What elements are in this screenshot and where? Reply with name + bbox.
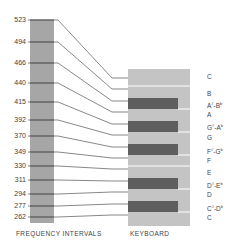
key-note-label: C — [207, 214, 212, 221]
frequency-label: 370 — [0, 132, 26, 140]
key-note-label: F#-Gb — [207, 146, 223, 155]
black-key — [128, 98, 178, 109]
frequency-label: 415 — [0, 98, 26, 106]
frequency-intervals-caption: FREQUENCY INTERVALS — [16, 230, 102, 237]
frequency-label: 330 — [0, 162, 26, 170]
frequency-label: 294 — [0, 190, 26, 198]
keyboard-caption: KEYBOARD — [130, 230, 169, 237]
diagram-graphics — [0, 0, 235, 247]
key-note-label: C#-Db — [207, 203, 223, 212]
frequency-label: 349 — [0, 148, 26, 156]
frequency-label: 523 — [0, 16, 26, 24]
key-note-label: E — [207, 169, 211, 176]
key-note-label: C — [207, 73, 212, 80]
frequency-label: 277 — [0, 202, 26, 210]
key-note-label: A — [207, 111, 211, 118]
key-note-label: F — [207, 157, 211, 164]
key-note-label: G#-Ab — [207, 122, 223, 131]
black-key — [128, 144, 178, 155]
key-note-label: A#-Bb — [207, 100, 222, 109]
black-key — [128, 178, 178, 189]
key-note-label: D — [207, 191, 212, 198]
frequency-label: 440 — [0, 79, 26, 87]
frequency-label: 466 — [0, 59, 26, 67]
frequency-label: 392 — [0, 116, 26, 124]
frequency-keyboard-diagram: 523494466440415392370349330311294277262 … — [0, 0, 235, 247]
key-note-label: D#-Eb — [207, 180, 223, 189]
key-note-label: B — [207, 90, 211, 97]
frequency-label: 262 — [0, 213, 26, 221]
frequency-bar — [30, 20, 54, 223]
key-note-label: G — [207, 134, 212, 141]
frequency-label: 311 — [0, 176, 26, 184]
black-key — [128, 201, 178, 212]
black-key — [128, 121, 178, 132]
frequency-label: 494 — [0, 38, 26, 46]
